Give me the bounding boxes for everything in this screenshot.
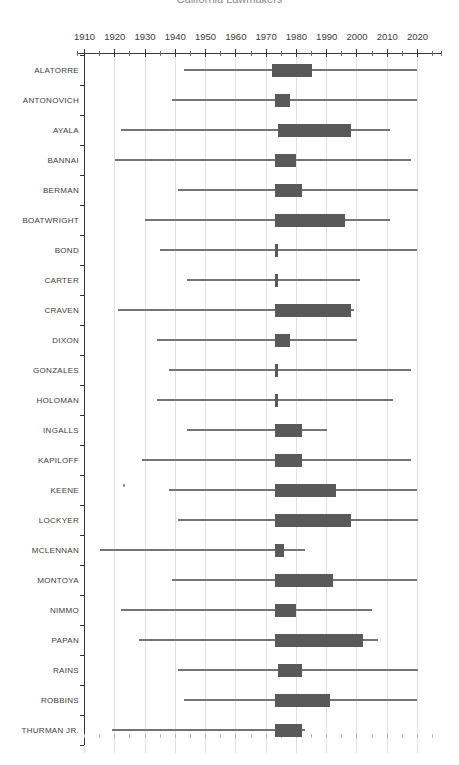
- bottom-tick: [99, 734, 100, 738]
- row-label: CARTER: [0, 276, 79, 285]
- bottom-tick: [129, 734, 130, 738]
- y-axis-tick: [80, 505, 84, 506]
- x-axis-major-tick: [326, 49, 327, 57]
- row-label: RAINS: [0, 666, 79, 675]
- gridline: [326, 53, 327, 753]
- x-axis-label: 2000: [346, 31, 367, 43]
- x-axis-major-tick: [266, 49, 267, 57]
- tenure-bar: [275, 544, 284, 557]
- bottom-tick: [372, 734, 373, 738]
- row-label: AYALA: [0, 126, 79, 135]
- row-label: THURMAN JR.: [0, 726, 79, 735]
- y-axis-tick: [80, 295, 84, 296]
- x-axis-minor-tick: [220, 51, 221, 56]
- row-label: BOND: [0, 246, 79, 255]
- y-axis-tick: [80, 205, 84, 206]
- x-axis-label: 1970: [256, 31, 277, 43]
- bottom-tick: [175, 734, 176, 738]
- tenure-bar: [278, 664, 302, 677]
- x-axis-major-tick: [175, 49, 176, 57]
- tenure-bar: [278, 124, 351, 137]
- x-axis-label: 1930: [134, 31, 155, 43]
- tenure-bar: [275, 574, 333, 587]
- x-axis-endcap-tick: [441, 51, 442, 56]
- y-axis-tick: [80, 685, 84, 686]
- bottom-tick: [326, 734, 327, 738]
- bottom-tick: [311, 734, 312, 738]
- bottom-tick: [114, 734, 115, 738]
- gridline: [266, 53, 267, 753]
- chart-title: California Lawmakers: [0, 0, 459, 5]
- gridline: [356, 53, 357, 753]
- bottom-tick: [341, 734, 342, 738]
- y-axis-tick: [80, 325, 84, 326]
- tenure-bar: [275, 244, 278, 257]
- x-axis-minor-tick: [372, 51, 373, 56]
- x-axis-minor-tick: [402, 51, 403, 56]
- lifespan-line: [160, 249, 417, 250]
- row-label: CRAVEN: [0, 306, 79, 315]
- gridline: [417, 53, 418, 753]
- y-axis-tick: [80, 55, 84, 56]
- row-label: PAPAN: [0, 636, 79, 645]
- bottom-tick: [190, 734, 191, 738]
- x-axis-label: 2010: [377, 31, 398, 43]
- bottom-tick: [266, 734, 267, 738]
- row-label: LOCKYER: [0, 516, 79, 525]
- gridline: [235, 53, 236, 753]
- x-axis-minor-tick: [311, 51, 312, 56]
- tenure-bar: [272, 64, 311, 77]
- tenure-bar: [275, 94, 290, 107]
- y-axis-tick: [80, 385, 84, 386]
- y-axis-tick: [80, 415, 84, 416]
- tenure-bar: [275, 604, 296, 617]
- x-axis-label: 1960: [225, 31, 246, 43]
- y-axis-tick: [80, 445, 84, 446]
- tenure-bar: [275, 274, 278, 287]
- gridline: [145, 53, 146, 753]
- y-axis-tick: [80, 625, 84, 626]
- x-axis-major-tick: [114, 49, 115, 57]
- bottom-tick: [251, 734, 252, 738]
- tenure-bar: [275, 634, 363, 647]
- tenure-bar: [275, 424, 302, 437]
- gridline: [114, 53, 115, 753]
- tenure-bar: [275, 334, 290, 347]
- x-axis-minor-tick: [190, 51, 191, 56]
- bottom-tick: [356, 734, 357, 738]
- x-axis-label: 1950: [195, 31, 216, 43]
- row-label: HOLOMAN: [0, 396, 79, 405]
- x-axis-minor-tick: [341, 51, 342, 56]
- y-axis-tick: [80, 595, 84, 596]
- x-axis-label: 1990: [316, 31, 337, 43]
- row-label: ROBBINS: [0, 696, 79, 705]
- x-axis-major-tick: [205, 49, 206, 57]
- y-axis-tick: [80, 535, 84, 536]
- lifespan-line: [121, 609, 372, 610]
- row-label: ALATORRE: [0, 66, 79, 75]
- bottom-tick: [235, 734, 236, 738]
- tenure-bar: [275, 514, 351, 527]
- tenure-bar: [275, 694, 329, 707]
- x-axis-endcap-tick: [77, 51, 78, 56]
- y-axis-tick: [80, 655, 84, 656]
- bottom-tick: [205, 734, 206, 738]
- x-axis-minor-tick: [281, 51, 282, 56]
- x-axis-major-tick: [356, 49, 357, 57]
- row-label: MONTOYA: [0, 576, 79, 585]
- row-label: KEENE: [0, 486, 79, 495]
- y-axis-tick: [80, 115, 84, 116]
- row-label: BERMAN: [0, 186, 79, 195]
- lifespan-line: [157, 339, 357, 340]
- tenure-bar: [275, 154, 296, 167]
- tenure-bar: [275, 364, 278, 377]
- bottom-tick: [417, 734, 418, 738]
- tenure-bar: [275, 454, 302, 467]
- y-axis-tick: [80, 235, 84, 236]
- row-label: GONZALES: [0, 366, 79, 375]
- bottom-tick: [387, 734, 388, 738]
- x-axis-label: 1910: [74, 31, 95, 43]
- y-axis-tick: [80, 145, 84, 146]
- bottom-tick: [160, 734, 161, 738]
- lifespan-line: [169, 369, 411, 370]
